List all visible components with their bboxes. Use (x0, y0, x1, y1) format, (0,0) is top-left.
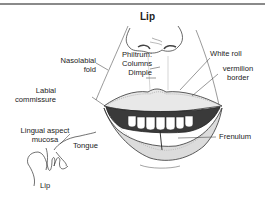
label-line: Lingual aspect (16, 126, 74, 135)
lip-section-label: Lip (40, 181, 50, 190)
label-line: Nasolabial (50, 56, 96, 65)
label-line: Dimple (110, 68, 152, 77)
label-line: commissure (8, 95, 56, 104)
label-line: Philtrum: (110, 50, 152, 59)
label-line: Columns (110, 59, 152, 68)
lingual-aspect-mucosa-label: Lingual aspect mucosa (16, 126, 74, 144)
tongue-label: Tongue (73, 141, 98, 150)
philtrum-label: Philtrum: Columns Dimple (110, 50, 152, 77)
label-line: mucosa (16, 135, 74, 144)
white-roll-label: White roll (210, 49, 242, 58)
nose-drawing (126, 26, 182, 53)
labial-commissure-label: Labial commissure (8, 86, 56, 104)
vermilion-border-label: vermilion border (216, 64, 260, 82)
upper-lip-drawing (104, 89, 222, 112)
nasolabial-fold-label: Nasolabial fold (50, 56, 96, 74)
label-line: fold (50, 65, 96, 74)
label-line: Labial (8, 86, 56, 95)
label-line: vermilion (216, 64, 260, 73)
upper-teeth (128, 116, 193, 130)
frenulum-label: Frenulum (219, 132, 251, 141)
label-line: border (216, 73, 260, 82)
